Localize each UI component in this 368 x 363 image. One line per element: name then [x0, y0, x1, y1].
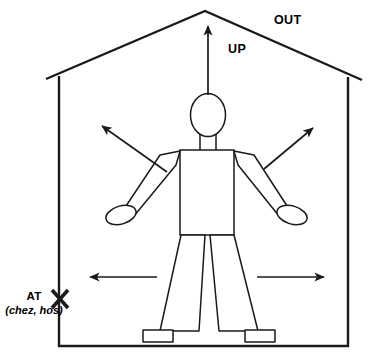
figure-head: [191, 94, 226, 137]
arrow-up-left-icon: [102, 126, 167, 172]
figure-torso: [180, 150, 234, 235]
figure-right-leg: [210, 235, 258, 331]
label-at-group: AT (chez, hos): [4, 290, 64, 317]
figure-left-leg: [160, 235, 205, 331]
house-roof: [46, 11, 362, 80]
figure-left-foot: [143, 330, 173, 342]
stick-figure-icon: [104, 94, 310, 343]
label-at-gloss: (chez, hos): [4, 304, 64, 317]
arrow-up-right-icon: [264, 128, 313, 169]
label-out: OUT: [274, 13, 302, 27]
label-at: AT: [4, 290, 64, 303]
label-up: UP: [228, 42, 246, 56]
figure-right-foot: [245, 330, 275, 342]
spatial-prepositions-diagram: OUT UP AT (chez, hos): [0, 0, 368, 363]
